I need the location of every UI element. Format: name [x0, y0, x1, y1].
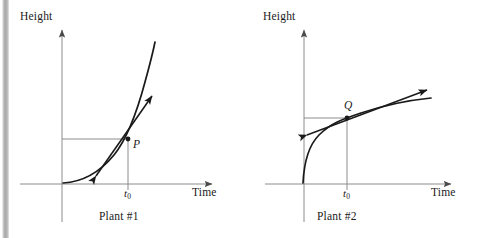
plot-plant-1	[0, 0, 251, 238]
caption-plant-2: Plant #2	[317, 210, 357, 222]
growth-curve-plant-2	[303, 98, 431, 183]
y-axis-label-plant-1: Height	[20, 10, 53, 22]
point-marker-p	[126, 137, 131, 142]
tick-label-t0-plant-2: t0	[343, 187, 350, 201]
y-axis-label-plant-2: Height	[263, 10, 296, 22]
point-marker-q	[345, 116, 350, 121]
tick-label-t0-plant-1: t0	[124, 187, 131, 201]
panel-plant-1: Height Time P t0 Plant #1	[0, 0, 251, 238]
x-axis-label-plant-1: Time	[192, 186, 217, 198]
tangent-line-plant-1	[96, 96, 152, 176]
point-label-p: P	[133, 138, 140, 150]
tick-label-sub-plant-1: 0	[127, 192, 131, 201]
tangent-line-plant-2	[307, 90, 427, 135]
plot-plant-2	[251, 0, 502, 238]
tick-label-sub-plant-2: 0	[346, 192, 350, 201]
point-label-q: Q	[344, 99, 352, 111]
figure-root: Height Time P t0 Plant #1	[0, 0, 502, 238]
panel-plant-2: Height Time Q t0 Plant #2	[251, 0, 502, 238]
caption-plant-1: Plant #1	[99, 210, 139, 222]
x-axis-label-plant-2: Time	[431, 186, 456, 198]
